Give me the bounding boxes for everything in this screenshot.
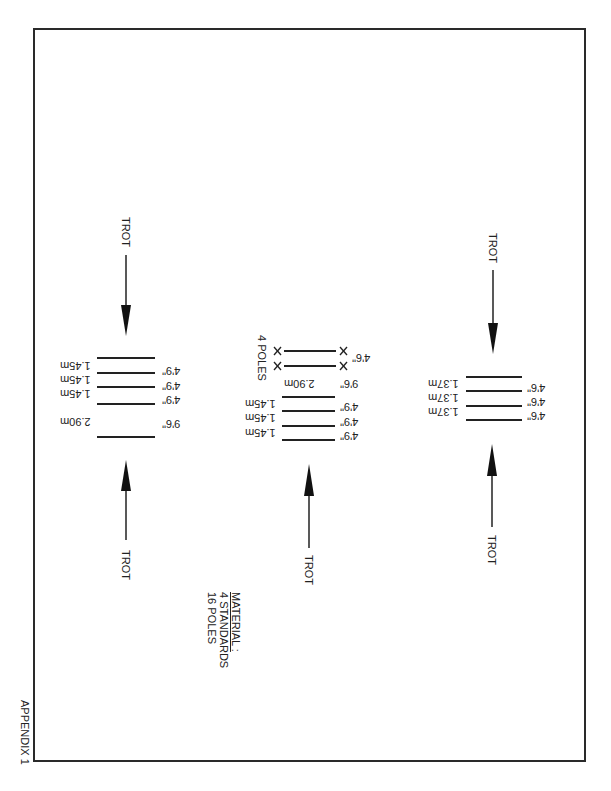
imperial-distance: 4'6" xyxy=(527,410,545,421)
imperial-distance: 4'6" xyxy=(352,352,370,363)
metric-distance: 1.45m xyxy=(245,398,276,409)
imperial-distance: 4'9" xyxy=(162,380,180,391)
bottom-arrow-head xyxy=(304,464,314,496)
metric-distance: 1.45m xyxy=(60,360,91,371)
trot-label: TROT xyxy=(120,217,131,247)
left-exercise xyxy=(97,255,155,540)
imperial-distance: 9'6" xyxy=(162,418,180,429)
raised-poles-label: 4 POLES xyxy=(256,335,267,381)
imperial-distance: 4'9" xyxy=(162,394,180,405)
appendix-label: APPENDIX 1 xyxy=(19,700,30,765)
bottom-arrow-head xyxy=(121,460,131,491)
metric-distance: 1.45m xyxy=(245,412,276,423)
metric-distance: 1.37m xyxy=(428,406,459,417)
imperial-distance: 4'9" xyxy=(162,365,180,376)
material-heading: MATERIAL : xyxy=(230,592,241,652)
trot-label: TROT xyxy=(303,555,314,585)
material-line: 4 STANDARDS xyxy=(218,592,229,668)
metric-distance: 1.45m xyxy=(60,388,91,399)
metric-distance: 2.90m xyxy=(284,378,315,389)
top-arrow-head xyxy=(121,305,131,336)
imperial-distance: 4'9" xyxy=(340,401,358,412)
trot-label: TROT xyxy=(120,550,131,580)
imperial-distance: 4'6" xyxy=(527,396,545,407)
bottom-arrow-head xyxy=(487,444,497,476)
imperial-distance: 4'9" xyxy=(340,430,358,441)
metric-distance: 1.45m xyxy=(245,427,276,438)
material-line: 16 POLES xyxy=(206,592,217,644)
top-arrow-head xyxy=(488,323,498,354)
imperial-distance: 4'6" xyxy=(527,382,545,393)
trot-label: TROT xyxy=(487,233,498,263)
diagram-drawing xyxy=(0,0,611,791)
imperial-distance: 9'6" xyxy=(340,378,358,389)
diagram-page: TROT 1.45m 1.45m 1.45m 2.90m 4'9" 4'9" 4… xyxy=(0,0,611,791)
metric-distance: 1.37m xyxy=(428,392,459,403)
metric-distance: 1.45m xyxy=(60,374,91,385)
metric-distance: 1.37m xyxy=(428,378,459,389)
imperial-distance: 4'9" xyxy=(340,416,358,427)
trot-label: TROT xyxy=(486,535,497,565)
metric-distance: 2.90m xyxy=(60,416,91,427)
right-exercise xyxy=(466,270,522,527)
